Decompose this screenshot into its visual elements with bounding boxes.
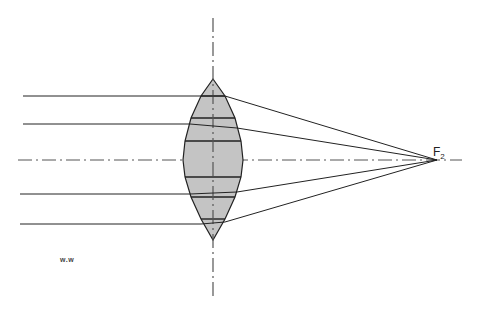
converging-ray bbox=[225, 160, 437, 222]
converging-ray bbox=[237, 160, 437, 192]
signature-label: w.w bbox=[60, 256, 74, 263]
converging-ray bbox=[237, 128, 437, 160]
ray-diagram bbox=[0, 0, 478, 317]
converging-ray bbox=[225, 96, 437, 160]
focal-point-label: F2 bbox=[433, 145, 445, 161]
